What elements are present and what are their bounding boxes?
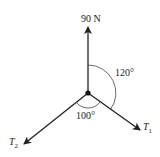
label-90n: 90 N: [81, 14, 101, 24]
label-100-angle: 100°: [76, 111, 95, 121]
junction-point: [85, 90, 90, 95]
label-120-angle: 120°: [115, 68, 134, 78]
force-diagram: [0, 0, 160, 157]
label-t1: T1: [143, 122, 152, 135]
label-t2: T2: [9, 137, 18, 150]
angle-arc-100: [76, 102, 100, 108]
force-arrow-t1: [88, 93, 140, 130]
